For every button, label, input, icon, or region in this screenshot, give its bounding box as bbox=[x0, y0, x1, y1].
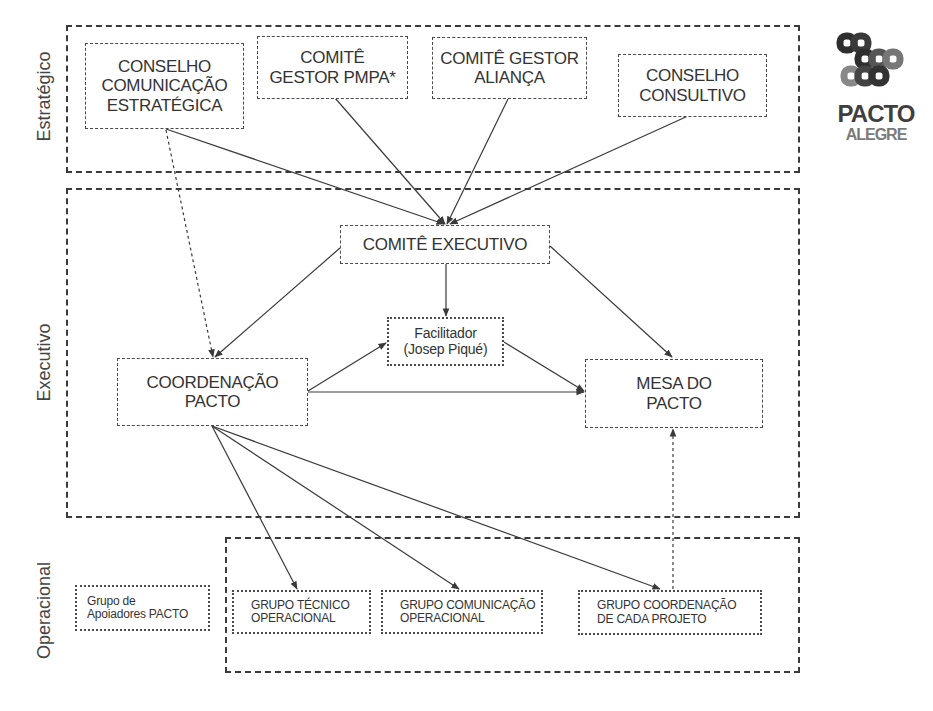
node-line: Facilitador bbox=[414, 326, 476, 342]
logo-text-alegre: ALEGRE bbox=[836, 127, 916, 143]
edge-conselho-comunicacao-to-coordenacao bbox=[166, 130, 213, 357]
node-line: GRUPO TÉCNICO bbox=[251, 599, 350, 612]
node-line: GESTOR PMPA* bbox=[269, 68, 395, 87]
node-conselho-consultivo: CONSELHO CONSULTIVO bbox=[618, 54, 767, 117]
node-line: MESA DO bbox=[636, 374, 711, 393]
node-line: COMITÊ GESTOR bbox=[440, 49, 578, 68]
node-coordenacao-pacto: COORDENAÇÃO PACTO bbox=[117, 358, 308, 426]
node-line: Apoiadores PACTO bbox=[87, 608, 188, 621]
node-line: CONSULTIVO bbox=[639, 86, 745, 105]
node-line: OPERACIONAL bbox=[251, 612, 336, 625]
node-line: CONSELHO bbox=[118, 57, 211, 76]
pacto-alegre-logo: PACTO ALEGRE bbox=[836, 32, 916, 152]
node-grupo-comunicacao-operacional: GRUPO COMUNICAÇÃO OPERACIONAL bbox=[381, 590, 543, 634]
node-line: CONSELHO bbox=[646, 66, 739, 85]
node-line: ALIANÇA bbox=[474, 68, 545, 87]
node-conselho-comunicacao-estrategica: CONSELHO COMUNICAÇÃO ESTRATÉGICA bbox=[85, 43, 244, 129]
node-line: PACTO bbox=[185, 392, 241, 411]
logo-text-pacto: PACTO bbox=[836, 102, 916, 126]
node-comite-gestor-alianca: COMITÊ GESTOR ALIANÇA bbox=[432, 37, 587, 99]
node-line: COMITÊ bbox=[300, 48, 364, 67]
node-line: ESTRATÉGICA bbox=[107, 96, 222, 115]
node-mesa-do-pacto: MESA DO PACTO bbox=[585, 359, 763, 428]
node-line: COMITÊ EXECUTIVO bbox=[363, 235, 527, 254]
edge-conselho-consultivo-to-comite-executivo bbox=[450, 116, 688, 224]
node-line: PACTO bbox=[646, 394, 702, 413]
interlocking-rings-icon bbox=[836, 32, 916, 102]
edge-comite-alianca-to-comite-executivo bbox=[447, 99, 508, 224]
edge-coordenacao-to-grupo-coordenacao bbox=[212, 426, 660, 589]
node-line: GRUPO COORDENAÇÃO bbox=[597, 599, 736, 612]
node-line: COMUNICAÇÃO bbox=[101, 76, 227, 95]
edge-facilitador-to-mesa bbox=[504, 342, 584, 391]
node-grupo-tecnico-operacional: GRUPO TÉCNICO OPERACIONAL bbox=[232, 590, 371, 634]
node-line: (Josep Piqué) bbox=[404, 342, 488, 358]
node-line: COORDENAÇÃO bbox=[147, 373, 279, 392]
edge-coordenacao-to-grupo-comunicacao bbox=[212, 426, 459, 589]
edge-comite-executivo-to-mesa bbox=[550, 246, 672, 357]
node-grupo-coordenacao-cada-projeto: GRUPO COORDENAÇÃO DE CADA PROJETO bbox=[578, 590, 762, 635]
node-line: Grupo de bbox=[87, 595, 135, 608]
edge-comite-executivo-to-coordenacao bbox=[215, 248, 340, 357]
edge-coordenacao-to-facilitador bbox=[308, 343, 386, 391]
node-comite-executivo: COMITÊ EXECUTIVO bbox=[340, 225, 550, 264]
node-line: OPERACIONAL bbox=[400, 612, 485, 625]
node-facilitador: Facilitador (Josep Piqué) bbox=[387, 317, 504, 366]
node-grupo-apoiadores-pacto: Grupo de Apoiadores PACTO bbox=[75, 585, 210, 631]
node-line: GRUPO COMUNICAÇÃO bbox=[400, 599, 535, 612]
edge-coordenacao-to-grupo-tecnico bbox=[212, 426, 297, 589]
edge-conselho-comunicacao-to-comite-executivo bbox=[166, 129, 444, 224]
node-comite-gestor-pmpa: COMITÊ GESTOR PMPA* bbox=[257, 36, 408, 99]
node-line: DE CADA PROJETO bbox=[597, 613, 706, 626]
